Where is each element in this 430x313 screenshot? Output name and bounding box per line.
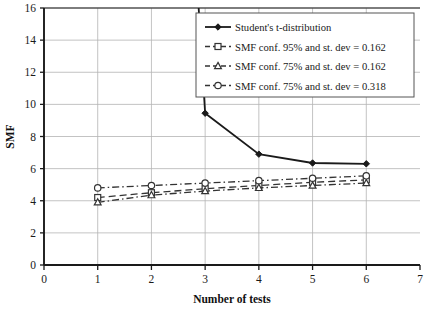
legend-label: SMF conf. 75% and st. dev = 0.318: [235, 81, 386, 92]
data-point-marker: [215, 44, 221, 50]
y-tick-label: 8: [30, 131, 36, 143]
chart-figure: 024681012141601234567SMFNumber of testsS…: [0, 0, 430, 313]
legend-label: Student's t-distribution: [235, 22, 332, 33]
x-tick-label: 5: [310, 273, 316, 285]
data-point-marker: [95, 185, 101, 191]
legend-label: SMF conf. 95% and st. dev = 0.162: [235, 42, 386, 53]
x-tick-label: 0: [41, 273, 47, 285]
y-tick-label: 14: [25, 34, 37, 46]
y-tick-label: 6: [30, 163, 36, 175]
legend-label: SMF conf. 75% and st. dev = 0.162: [235, 61, 386, 72]
x-tick-label: 2: [149, 273, 155, 285]
data-point-marker: [363, 173, 369, 179]
y-axis-title: SMF: [4, 124, 16, 148]
data-point-marker: [215, 82, 221, 88]
circle-marker-icon: [95, 185, 101, 191]
circle-marker-icon: [148, 182, 154, 188]
y-tick-label: 12: [25, 66, 37, 78]
y-tick-label: 2: [30, 227, 36, 239]
y-tick-label: 10: [25, 98, 37, 110]
y-tick-label: 16: [25, 2, 37, 14]
x-tick-label: 3: [202, 273, 208, 285]
square-marker-icon: [215, 44, 221, 50]
x-tick-label: 6: [363, 273, 369, 285]
data-point-marker: [256, 177, 262, 183]
circle-marker-icon: [363, 173, 369, 179]
chart-legend: Student's t-distributionSMF conf. 95% an…: [196, 13, 414, 97]
circle-marker-icon: [309, 175, 315, 181]
data-point-marker: [309, 175, 315, 181]
data-point-marker: [202, 180, 208, 186]
x-axis-title: Number of tests: [193, 293, 271, 305]
y-tick-label: 4: [30, 195, 36, 207]
x-tick-label: 1: [95, 273, 101, 285]
x-tick-label: 4: [256, 273, 262, 285]
y-tick-label: 0: [30, 259, 36, 271]
circle-marker-icon: [256, 177, 262, 183]
circle-marker-icon: [202, 180, 208, 186]
circle-marker-icon: [215, 82, 221, 88]
data-point-marker: [148, 182, 154, 188]
smf-line-chart: 024681012141601234567SMFNumber of testsS…: [0, 0, 430, 313]
x-tick-label: 7: [417, 273, 423, 285]
